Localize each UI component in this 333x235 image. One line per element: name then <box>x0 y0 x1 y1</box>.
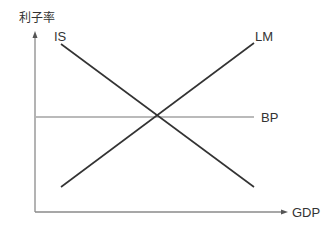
is-curve-label: IS <box>54 30 66 43</box>
y-axis-arrow-icon <box>33 31 38 38</box>
is-lm-bp-diagram: 利子率 IS LM BP GDP <box>0 0 333 235</box>
y-axis-label: 利子率 <box>19 12 55 24</box>
lm-curve-label: LM <box>255 30 273 43</box>
x-axis-arrow-icon <box>281 210 288 215</box>
bp-curve-label: BP <box>261 111 278 124</box>
diagram-graphics <box>0 0 333 235</box>
x-axis-label: GDP <box>292 206 320 219</box>
